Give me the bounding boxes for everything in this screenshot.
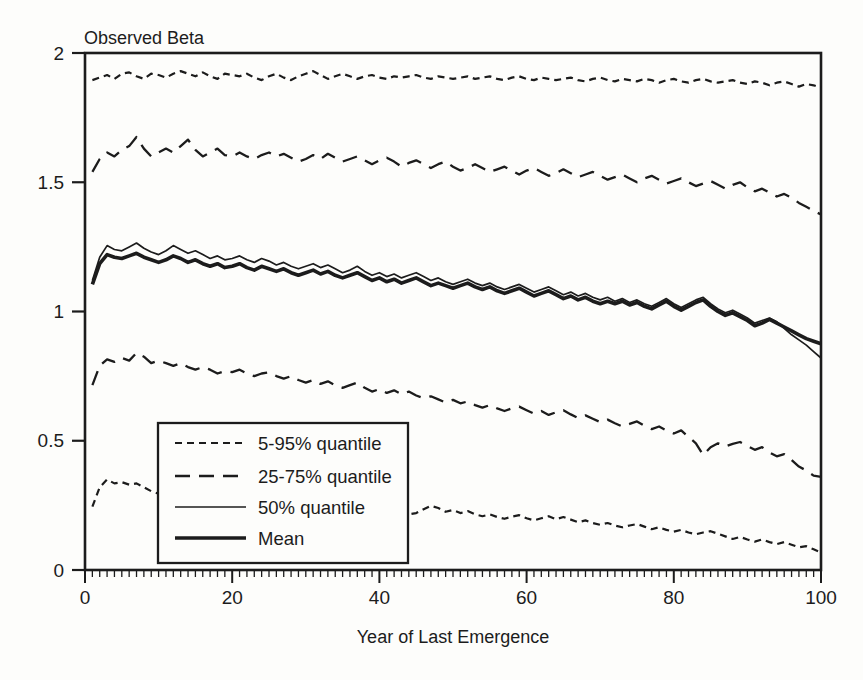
y-tick-label: 1.5 [38,172,64,193]
x-axis-ticks: 020406080100 [80,570,837,608]
legend-label: 25-75% quantile [258,466,392,487]
y-axis-ticks: 00.511.52 [38,43,85,581]
series-line-95-quantile [92,71,821,88]
series-line-50-quantile [92,243,821,358]
y-tick-label: 0.5 [38,430,64,451]
legend-label: 50% quantile [258,497,365,518]
x-tick-label: 80 [663,587,684,608]
y-tick-label: 1 [53,301,64,322]
x-tick-label: 40 [369,587,390,608]
y-tick-label: 0 [53,560,64,581]
y-axis-title: Observed Beta [84,28,205,48]
x-tick-label: 100 [805,587,837,608]
legend-label: Mean [258,528,304,549]
x-tick-label: 0 [80,587,91,608]
x-tick-label: 60 [516,587,537,608]
beta-quantile-chart: Observed Beta 00.511.52 020406080100 5-9… [0,0,863,680]
x-axis-title: Year of Last Emergence [357,627,549,647]
series-line-mean [92,253,821,343]
series-line-75-quantile [92,137,821,215]
legend: 5-95% quantile25-75% quantile50% quantil… [158,423,408,563]
figure-page: Observed Beta 00.511.52 020406080100 5-9… [0,0,863,680]
x-tick-label: 20 [222,587,243,608]
y-tick-label: 2 [53,43,64,64]
legend-label: 5-95% quantile [258,433,381,454]
